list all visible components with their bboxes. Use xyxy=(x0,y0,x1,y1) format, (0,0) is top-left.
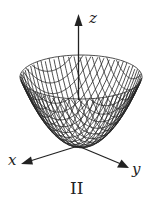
figure-caption: II xyxy=(70,180,83,197)
x-axis xyxy=(21,146,78,165)
x-arrowhead-icon xyxy=(21,157,33,165)
z-axis-label: z xyxy=(89,11,97,26)
paraboloid-wireframe xyxy=(20,55,142,148)
y-axis xyxy=(78,146,129,168)
paraboloid-diagram: z x y II xyxy=(0,0,154,201)
x-axis-label: x xyxy=(8,153,16,168)
paraboloid-figure xyxy=(0,0,154,201)
y-axis-label: y xyxy=(132,162,140,177)
z-arrowhead-icon xyxy=(75,14,83,26)
